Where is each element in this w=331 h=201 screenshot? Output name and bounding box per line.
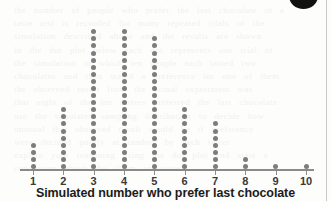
data-dot bbox=[122, 29, 127, 34]
dot-column bbox=[147, 36, 161, 169]
data-dot bbox=[122, 114, 127, 119]
data-dot bbox=[152, 93, 157, 98]
data-dot bbox=[122, 51, 127, 56]
data-dot bbox=[61, 150, 66, 155]
data-dot bbox=[61, 129, 66, 134]
data-dot bbox=[213, 164, 218, 169]
data-dot bbox=[213, 136, 218, 141]
data-dot bbox=[31, 164, 36, 169]
data-dot bbox=[152, 36, 157, 41]
data-dot bbox=[213, 143, 218, 148]
axis-tick-label: 2 bbox=[50, 175, 76, 187]
data-dot bbox=[182, 114, 187, 119]
data-dot bbox=[243, 164, 248, 169]
data-dot bbox=[122, 65, 127, 70]
dot-column bbox=[269, 164, 283, 169]
data-dot bbox=[152, 72, 157, 77]
data-dot bbox=[31, 143, 36, 148]
data-dot bbox=[61, 114, 66, 119]
data-dot bbox=[122, 86, 127, 91]
data-dot bbox=[152, 143, 157, 148]
data-dot bbox=[152, 100, 157, 105]
data-dot bbox=[182, 150, 187, 155]
data-dot bbox=[122, 79, 127, 84]
data-dot bbox=[122, 150, 127, 155]
axis-tick-label: 1 bbox=[20, 175, 46, 187]
axis-tick-label: 8 bbox=[232, 175, 258, 187]
data-dot bbox=[61, 107, 66, 112]
data-dot bbox=[91, 107, 96, 112]
data-dot bbox=[122, 164, 127, 169]
data-dot bbox=[182, 121, 187, 126]
figure-container: the number of people who prefer the last… bbox=[0, 0, 331, 201]
data-dot bbox=[91, 121, 96, 126]
data-dot bbox=[91, 129, 96, 134]
data-dot bbox=[122, 36, 127, 41]
axis-tick-label: 6 bbox=[172, 175, 198, 187]
data-dot bbox=[122, 100, 127, 105]
data-dot bbox=[122, 121, 127, 126]
axis-tick-label: 7 bbox=[202, 175, 228, 187]
data-dot bbox=[182, 164, 187, 169]
data-dot bbox=[152, 58, 157, 63]
data-dot bbox=[152, 136, 157, 141]
data-dot bbox=[122, 58, 127, 63]
data-dot bbox=[91, 36, 96, 41]
data-dot bbox=[243, 157, 248, 162]
data-dot bbox=[273, 164, 278, 169]
data-dot bbox=[91, 143, 96, 148]
data-dot bbox=[31, 150, 36, 155]
data-dot bbox=[182, 107, 187, 112]
data-dot bbox=[91, 51, 96, 56]
data-dot bbox=[122, 129, 127, 134]
data-dot bbox=[152, 164, 157, 169]
data-dot bbox=[122, 136, 127, 141]
dot-column bbox=[238, 157, 252, 169]
data-dot bbox=[91, 100, 96, 105]
data-dot bbox=[91, 43, 96, 48]
data-dot bbox=[152, 157, 157, 162]
dot-column bbox=[117, 29, 131, 169]
axis-tick-label: 3 bbox=[81, 175, 107, 187]
data-dot bbox=[152, 86, 157, 91]
data-dot bbox=[122, 143, 127, 148]
dot-column bbox=[178, 107, 192, 169]
data-dot bbox=[91, 29, 96, 34]
data-dot bbox=[122, 43, 127, 48]
dot-column bbox=[26, 143, 40, 169]
data-dot bbox=[91, 65, 96, 70]
data-dot bbox=[182, 157, 187, 162]
data-dot bbox=[122, 72, 127, 77]
data-dot bbox=[152, 79, 157, 84]
data-dot bbox=[182, 143, 187, 148]
data-dot bbox=[152, 150, 157, 155]
dot-plot: 12345678910 bbox=[0, 0, 331, 201]
data-dot bbox=[152, 65, 157, 70]
data-dot bbox=[122, 157, 127, 162]
data-dot bbox=[213, 121, 218, 126]
data-dot bbox=[61, 164, 66, 169]
data-dot bbox=[61, 157, 66, 162]
data-dot bbox=[91, 79, 96, 84]
data-dot bbox=[61, 143, 66, 148]
data-dot bbox=[182, 129, 187, 134]
axis-tick-label: 5 bbox=[141, 175, 167, 187]
data-dot bbox=[304, 164, 309, 169]
dot-column bbox=[87, 29, 101, 169]
data-dot bbox=[122, 93, 127, 98]
axis-tick-label: 10 bbox=[293, 175, 319, 187]
data-dot bbox=[152, 129, 157, 134]
data-dot bbox=[152, 107, 157, 112]
data-dot bbox=[91, 114, 96, 119]
data-dot bbox=[213, 129, 218, 134]
data-dot bbox=[91, 58, 96, 63]
data-dot bbox=[152, 121, 157, 126]
data-dot bbox=[213, 157, 218, 162]
data-dot bbox=[152, 43, 157, 48]
axis-tick-label: 4 bbox=[111, 175, 137, 187]
data-dot bbox=[91, 136, 96, 141]
data-dot bbox=[122, 107, 127, 112]
data-dot bbox=[91, 86, 96, 91]
dot-column bbox=[208, 121, 222, 169]
data-dot bbox=[91, 72, 96, 77]
